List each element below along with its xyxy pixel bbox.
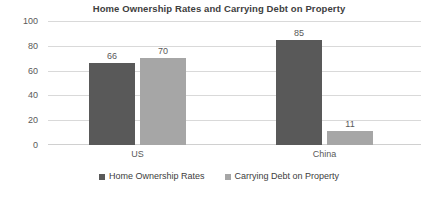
y-tick-label-80: 80	[28, 41, 38, 51]
y-tick-label-60: 60	[28, 66, 38, 76]
y-tick-label-20: 20	[28, 115, 38, 125]
y-tick-label-40: 40	[28, 90, 38, 100]
bar-value-us-home-ownership-rates: 66	[89, 51, 135, 61]
bar-chart: Home Ownership Rates and Carrying Debt o…	[0, 0, 438, 199]
legend-item-home-ownership-rates[interactable]: Home Ownership Rates	[99, 171, 205, 182]
y-tick-label-100: 100	[23, 16, 38, 26]
chart-title: Home Ownership Rates and Carrying Debt o…	[0, 3, 438, 15]
legend-item-carrying-debt-on-property[interactable]: Carrying Debt on Property	[225, 171, 340, 182]
y-axis: 100 80 60 40 20 0	[0, 21, 44, 145]
x-axis-labels: US China	[48, 148, 421, 164]
bar-china-carrying-debt-on-property[interactable]	[327, 131, 373, 145]
bar-us-carrying-debt-on-property[interactable]	[140, 58, 186, 145]
x-axis-label-china: China	[276, 148, 373, 160]
plot-area: 66 70 85 11	[48, 21, 421, 145]
chart-legend: Home Ownership Rates Carrying Debt on Pr…	[0, 171, 438, 182]
bar-value-china-home-ownership-rates: 85	[276, 28, 322, 38]
bar-value-china-carrying-debt-on-property: 11	[327, 119, 373, 129]
bar-china-home-ownership-rates[interactable]	[276, 40, 322, 145]
y-tick-label-0: 0	[33, 140, 38, 150]
legend-swatch-icon-carrying-debt-on-property	[225, 174, 231, 180]
legend-label-carrying-debt-on-property: Carrying Debt on Property	[235, 171, 340, 182]
bar-value-us-carrying-debt-on-property: 70	[140, 46, 186, 56]
legend-label-home-ownership-rates: Home Ownership Rates	[109, 171, 205, 182]
legend-swatch-icon-home-ownership-rates	[99, 174, 105, 180]
bars-layer: 66 70 85 11	[48, 21, 421, 145]
bar-us-home-ownership-rates[interactable]	[89, 63, 135, 145]
x-axis-label-us: US	[89, 148, 186, 160]
